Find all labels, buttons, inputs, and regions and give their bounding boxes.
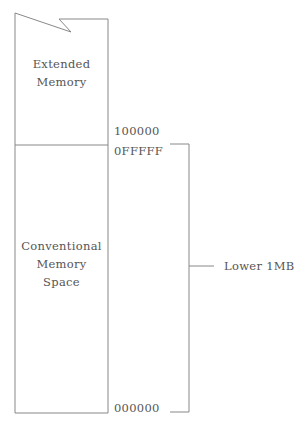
conventional-label-line-3: Space: [15, 273, 108, 291]
address-000000: 000000: [114, 401, 160, 415]
extended-label-line-2: Memory: [15, 73, 108, 91]
lower-1mb-label: Lower 1MB: [224, 259, 295, 273]
extended-memory-label: Extended Memory: [15, 55, 108, 91]
conventional-label-line-2: Memory: [15, 255, 108, 273]
address-0fffff: 0FFFFF: [114, 144, 163, 158]
conventional-label-line-1: Conventional: [15, 237, 108, 255]
lower-1mb-bracket: [170, 144, 189, 412]
address-100000: 100000: [114, 124, 160, 138]
conventional-memory-label: Conventional Memory Space: [15, 237, 108, 291]
extended-label-line-1: Extended: [15, 55, 108, 73]
